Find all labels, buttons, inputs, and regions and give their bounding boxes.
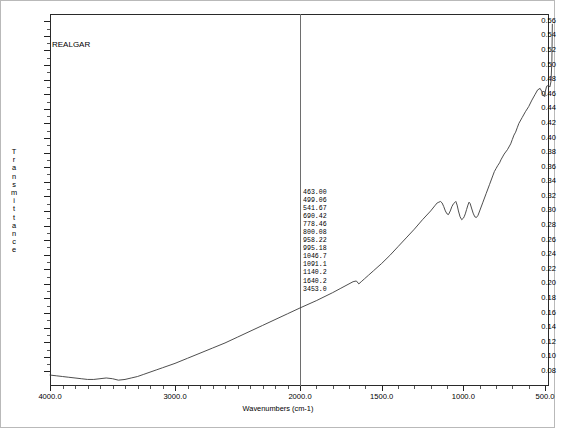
x-axis-minor-tick	[238, 386, 239, 389]
y-axis-tick	[44, 80, 50, 81]
y-axis-tick-label: 0.20	[516, 279, 556, 287]
x-axis-tick-label: 3000.0	[152, 392, 198, 401]
series-label: REALGAR	[52, 40, 90, 49]
y-axis-tick-label: 0.40	[516, 134, 556, 142]
peak-value: 3453.0	[303, 286, 327, 294]
y-axis-tick-label: 0.22	[516, 265, 556, 273]
x-axis-minor-tick	[250, 386, 251, 389]
y-axis-tick-label: 0.18	[516, 294, 556, 302]
x-axis-minor-tick	[275, 386, 276, 389]
y-axis-tick	[44, 284, 50, 285]
y-axis-tick-label: 0.54	[516, 31, 556, 39]
y-axis-tick	[44, 298, 50, 299]
y-axis-tick-label: 0.52	[516, 46, 556, 54]
y-axis-minor-tick	[47, 233, 50, 234]
peak-value: 499.06	[303, 197, 327, 205]
x-axis-tick	[50, 386, 51, 391]
y-axis-tick-label: 0.26	[516, 236, 556, 244]
y-axis-tick	[44, 269, 50, 270]
x-axis-minor-tick	[100, 386, 101, 389]
y-axis-tick-label: 0.12	[516, 338, 556, 346]
y-axis-tick	[44, 240, 50, 241]
y-axis-minor-tick	[47, 145, 50, 146]
x-axis-minor-tick	[512, 386, 513, 389]
y-axis-tick	[44, 357, 50, 358]
y-axis-tick	[44, 182, 50, 183]
y-axis-tick	[44, 138, 50, 139]
y-axis-minor-tick	[47, 174, 50, 175]
y-axis-tick	[44, 65, 50, 66]
y-axis-tick	[44, 153, 50, 154]
y-axis-minor-tick	[47, 335, 50, 336]
x-axis-tick-label: 500.0	[522, 392, 561, 401]
peak-value: 463.00	[303, 189, 327, 197]
y-axis-tick-label: 0.56	[516, 17, 556, 25]
x-axis-title: Wavenumbers (cm-1)	[0, 404, 556, 413]
x-axis-tick	[463, 386, 464, 391]
peak-value: 800.08	[303, 229, 327, 237]
x-axis-minor-tick	[200, 386, 201, 389]
y-axis-minor-tick	[47, 364, 50, 365]
y-axis-tick	[44, 50, 50, 51]
y-axis-tick	[44, 123, 50, 124]
x-axis-minor-tick	[113, 386, 114, 389]
y-axis-tick-label: 0.32	[516, 192, 556, 200]
x-axis-tick-label: 4000.0	[27, 392, 73, 401]
y-axis-tick-label: 0.24	[516, 250, 556, 258]
y-axis-tick	[44, 196, 50, 197]
y-axis-tick-label: 0.10	[516, 352, 556, 360]
peak-value: 1046.7	[303, 253, 327, 261]
x-scale-break-line	[300, 14, 301, 386]
y-axis-tick	[44, 21, 50, 22]
y-axis-tick	[44, 211, 50, 212]
x-axis-tick-label: 1500.0	[359, 392, 405, 401]
y-axis-minor-tick	[47, 262, 50, 263]
x-axis-minor-tick	[188, 386, 189, 389]
peak-value: 1140.2	[303, 269, 327, 277]
x-axis-minor-tick	[225, 386, 226, 389]
y-axis-minor-tick	[47, 58, 50, 59]
y-axis-tick	[44, 94, 50, 95]
x-axis-minor-tick	[398, 386, 399, 389]
y-axis-tick-label: 0.48	[516, 75, 556, 83]
y-axis-minor-tick	[47, 291, 50, 292]
peak-value: 690.42	[303, 213, 327, 221]
x-axis-minor-tick	[333, 386, 334, 389]
y-axis-minor-tick	[47, 29, 50, 30]
x-axis-minor-tick	[365, 386, 366, 389]
y-axis-tick-label: 0.34	[516, 177, 556, 185]
x-axis-tick	[382, 386, 383, 391]
y-axis-tick-label: 0.16	[516, 309, 556, 317]
y-axis-tick-label: 0.50	[516, 61, 556, 69]
x-axis-minor-tick	[150, 386, 151, 389]
y-axis-tick	[44, 255, 50, 256]
y-axis-tick	[44, 328, 50, 329]
y-axis-minor-tick	[47, 131, 50, 132]
y-axis-tick	[44, 226, 50, 227]
x-axis-minor-tick	[316, 386, 317, 389]
x-axis-minor-tick	[75, 386, 76, 389]
y-axis-minor-tick	[47, 320, 50, 321]
x-axis-minor-tick	[414, 386, 415, 389]
y-axis-tick	[44, 109, 50, 110]
x-axis-minor-tick	[529, 386, 530, 389]
peak-annotation-list: 463.00499.06541.67690.42778.46800.08958.…	[303, 189, 327, 294]
peak-value: 1091.1	[303, 261, 327, 269]
peak-value: 958.22	[303, 237, 327, 245]
y-axis-tick-label: 0.28	[516, 221, 556, 229]
x-axis-tick-label: 2000.0	[277, 392, 323, 401]
y-axis-tick	[44, 167, 50, 168]
y-axis-tick-label: 0.44	[516, 104, 556, 112]
y-axis-minor-tick	[47, 87, 50, 88]
x-axis-tick	[175, 386, 176, 391]
y-axis-title: Transmittance	[8, 148, 20, 255]
x-axis-minor-tick	[349, 386, 350, 389]
y-axis-minor-tick	[47, 102, 50, 103]
y-axis-tick-label: 0.08	[516, 367, 556, 375]
y-axis-tick-label: 0.42	[516, 119, 556, 127]
y-axis-minor-tick	[47, 218, 50, 219]
y-axis-tick-label: 0.36	[516, 163, 556, 171]
peak-value: 995.18	[303, 245, 327, 253]
x-axis-minor-tick	[288, 386, 289, 389]
